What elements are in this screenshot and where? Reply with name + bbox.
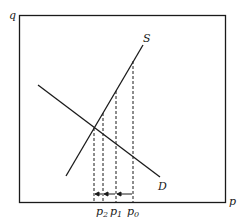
p2-label: p2 [96, 205, 108, 219]
q-axis-label: q [9, 9, 16, 22]
arrowhead-icon [117, 192, 121, 196]
supply-demand-diagram: q p D S p2 p1 p0 [0, 0, 245, 221]
plot-frame [20, 16, 226, 203]
p1-label: p1 [110, 205, 122, 219]
supply-label: S [143, 32, 151, 45]
demand-label: D [157, 180, 167, 193]
demand-curve [38, 85, 160, 177]
supply-curve [66, 45, 143, 176]
arrowhead-icon [95, 192, 99, 196]
p-axis-label: p [229, 195, 236, 208]
arrowhead-icon [104, 192, 108, 196]
p0-label: p0 [127, 205, 139, 219]
